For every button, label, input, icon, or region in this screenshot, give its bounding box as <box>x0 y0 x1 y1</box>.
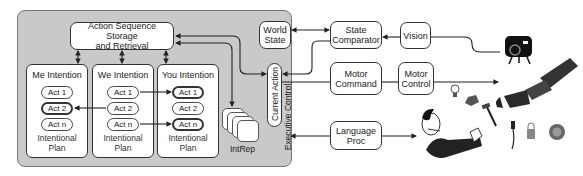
light-bulb-icon <box>451 85 459 97</box>
camera-icon <box>505 36 532 64</box>
comparator-current-action-arrow <box>283 41 330 74</box>
hammer-icon <box>482 103 496 126</box>
cable-plug-icon <box>511 121 515 149</box>
connectors-and-illustrations <box>0 0 583 176</box>
human-with-headset-icon <box>422 109 482 158</box>
storage-current-action-arrow <box>176 36 266 74</box>
storage-intrep-arrow <box>176 43 232 106</box>
camera-vision-line <box>431 37 500 52</box>
padlock-icon <box>527 123 535 139</box>
turtle-toy-icon <box>465 95 479 106</box>
lion-toy-icon <box>549 124 565 140</box>
robot-arm-icon <box>496 58 578 108</box>
